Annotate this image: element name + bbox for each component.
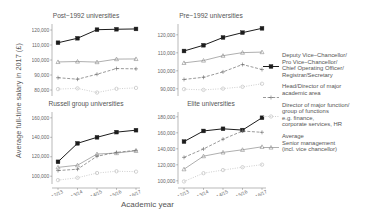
svg-text:16/17: 16/17 [129,189,142,196]
legend-marker-dashed-plus-mid-icon [262,87,280,94]
svg-text:90,000: 90,000 [160,87,175,92]
legend-label: Head/Director of majoracademic area [282,83,368,96]
y-axis-label: Average full-time salary in 2017 (£) [14,21,23,181]
svg-text:14/15: 14/15 [90,189,103,196]
legend-label: Deputy Vice−Chancellor/Pro Vice−Chancell… [282,52,368,78]
svg-text:120,000: 120,000 [158,163,176,168]
legend-item[interactable]: Deputy Vice−Chancellor/Pro Vice−Chancell… [262,52,368,78]
svg-text:14/15: 14/15 [216,189,229,196]
legend-marker-dotted-circle-light-icon [262,106,280,113]
svg-text:100,000: 100,000 [158,179,176,184]
plot-area: 100,000120,000140,000160,000180,00012/13… [156,110,272,196]
plot-area: 100,000120,000140,000160,00012/1313/1414… [32,110,146,196]
panel-title: Russell group universities [32,100,140,107]
svg-text:120,000: 120,000 [158,33,176,38]
svg-text:15/16: 15/16 [109,189,122,196]
legend-marker-solid-triangle-mid-icon [262,137,280,144]
svg-text:140,000: 140,000 [32,135,49,140]
svg-text:160,000: 160,000 [32,116,49,121]
svg-text:100,000: 100,000 [32,58,49,63]
legend-marker-solid-square-dark-icon [262,56,280,63]
panel-title: Elite universities [156,100,266,107]
svg-text:80,000: 80,000 [34,88,49,93]
legend-label: AverageSenior management(incl. vice chan… [282,133,368,153]
svg-text:13/14: 13/14 [196,189,209,196]
panel-title: Post−1992 universities [32,12,140,19]
svg-text:110,000: 110,000 [158,51,176,56]
legend-item[interactable]: Director of major function/group of func… [262,102,368,128]
legend-item[interactable]: Head/Director of majoracademic area [262,83,368,96]
svg-text:180,000: 180,000 [158,115,176,120]
svg-text:100,000: 100,000 [158,69,176,74]
svg-text:13/14: 13/14 [70,189,83,196]
panel-title: Pre−1992 universities [156,12,266,19]
chart-legend: Deputy Vice−Chancellor/Pro Vice−Chancell… [262,52,368,158]
plot-area: 90,000100,000110,000120,000 [156,22,272,108]
plot-area: 80,00090,000100,000110,000120,000 [32,22,146,108]
svg-text:16/17: 16/17 [255,189,268,196]
svg-text:120,000: 120,000 [32,28,49,33]
svg-text:12/13: 12/13 [51,189,64,196]
svg-text:160,000: 160,000 [158,131,176,136]
svg-text:100,000: 100,000 [32,174,49,179]
svg-text:15/16: 15/16 [235,189,248,196]
legend-label: Director of major function/group of func… [282,102,368,128]
svg-text:120,000: 120,000 [32,154,49,159]
svg-text:140,000: 140,000 [158,147,176,152]
svg-text:110,000: 110,000 [32,43,49,48]
legend-item[interactable]: AverageSenior management(incl. vice chan… [262,133,368,153]
x-axis-label: Academic year [40,200,255,209]
svg-text:90,000: 90,000 [34,73,49,78]
svg-text:12/13: 12/13 [177,189,190,196]
chart-figure: Average full-time salary in 2017 (£) Aca… [0,0,368,220]
